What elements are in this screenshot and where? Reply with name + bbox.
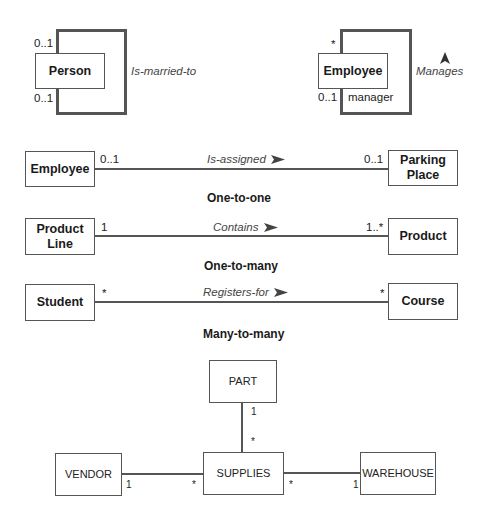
relationship-label: Is-married-to [131,65,196,77]
entity-label: Person [49,64,91,79]
entity-label: Course [401,294,444,309]
multiplicity-bottom: 0..1 [318,91,337,103]
multiplicity-top: 0..1 [34,37,53,49]
entity-course[interactable]: Course [388,283,458,320]
cardinality-caption: Many-to-many [203,327,284,341]
relationship-label: Manages [416,65,463,77]
entity-label: Product [399,229,446,244]
multiplicity-warehouse-end: 1 [353,479,359,490]
relationship-label: Contains [213,221,276,233]
entity-supplies[interactable]: SUPPLIES [203,452,284,495]
association-line [95,235,388,237]
entity-part[interactable]: PART [209,360,277,403]
direction-arrow-icon [271,155,285,164]
entity-employee[interactable]: Employee [25,151,95,187]
entity-vendor[interactable]: VENDOR [55,453,122,496]
right-multiplicity: 1..* [366,221,383,233]
entity-label-line2: Place [407,168,440,183]
entity-product[interactable]: Product [388,218,458,255]
entity-label-line2: Line [47,237,73,252]
role-label: manager [348,91,393,103]
association-line-part [241,403,243,452]
entity-student[interactable]: Student [25,284,95,321]
up-arrow-icon [439,52,451,64]
relationship-label: Is-assigned [207,153,283,165]
entity-label: Student [37,295,84,310]
cardinality-caption: One-to-many [204,259,278,273]
left-multiplicity: * [102,287,106,299]
direction-arrow-icon [264,223,278,232]
entity-employee[interactable]: Employee [318,53,388,89]
entity-label: Employee [323,64,382,79]
left-multiplicity: 0..1 [100,153,119,165]
entity-product-line[interactable]: Product Line [25,218,95,255]
association-line-vendor [122,473,203,475]
association-line [95,301,388,303]
entity-person[interactable]: Person [35,53,105,89]
entity-label: SUPPLIES [217,466,271,481]
association-line [95,168,388,170]
left-multiplicity: 1 [101,221,107,233]
entity-label-line1: Parking [400,153,446,168]
relationship-label: Registers-for [203,286,286,298]
multiplicity-supplies-vendor-end: * [192,479,196,490]
association-line-warehouse [284,472,360,474]
entity-warehouse[interactable]: WAREHOUSE [360,452,436,495]
multiplicity-supplies-warehouse-end: * [289,479,293,490]
entity-label-line1: Product [36,222,83,237]
entity-label: Employee [30,162,89,177]
entity-label: WAREHOUSE [362,466,434,481]
direction-arrow-icon [274,288,288,297]
right-multiplicity: * [380,287,384,299]
entity-parking-place[interactable]: Parking Place [388,150,458,186]
right-multiplicity: 0..1 [364,153,383,165]
multiplicity-part-end: 1 [251,406,257,417]
multiplicity-supplies-part-end: * [251,436,255,447]
multiplicity-top: * [331,38,335,50]
multiplicity-bottom: 0..1 [34,92,53,104]
cardinality-caption: One-to-one [207,191,271,205]
entity-label: VENDOR [65,467,112,482]
entity-label: PART [229,374,257,389]
multiplicity-vendor-end: 1 [126,479,132,490]
